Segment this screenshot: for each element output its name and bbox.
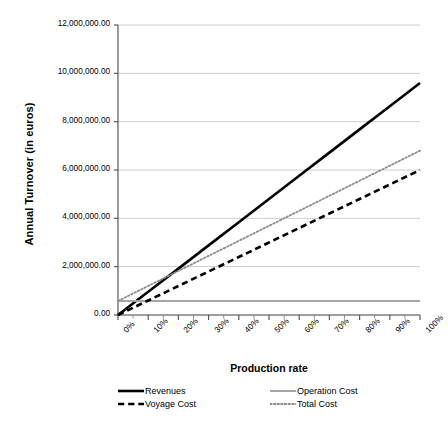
x-tick-label: 60%	[303, 328, 309, 334]
x-tick-label: 70%	[333, 328, 339, 334]
legend-label: Operation Cost	[297, 387, 358, 396]
x-tick-label: 80%	[363, 328, 369, 334]
x-tick-label: 0%	[122, 328, 128, 334]
x-tick-label: 100%	[424, 328, 430, 334]
x-axis-title: Production rate	[118, 362, 420, 374]
chart-container: Annual Turnover (in euros) 0.002,000,000…	[0, 0, 448, 435]
x-tick-label: 20%	[182, 328, 188, 334]
legend-label: Revenues	[145, 387, 186, 396]
line-dashed-black-icon	[118, 399, 144, 409]
x-tick-label: 40%	[243, 328, 249, 334]
legend-item[interactable]: Revenues	[118, 386, 266, 396]
chart-legend: RevenuesOperation CostVoyage CostTotal C…	[118, 386, 418, 409]
line-solid-black-icon	[118, 386, 144, 396]
legend-item[interactable]: Operation Cost	[270, 386, 418, 396]
x-tick-label: 10%	[152, 328, 158, 334]
legend-label: Total Cost	[297, 400, 337, 409]
legend-label: Voyage Cost	[145, 400, 196, 409]
legend-item[interactable]: Voyage Cost	[118, 399, 266, 409]
legend-item[interactable]: Total Cost	[270, 399, 418, 409]
x-tick-label: 30%	[212, 328, 218, 334]
line-dotted-gray-icon	[270, 399, 296, 409]
x-tick-label: 50%	[273, 328, 279, 334]
line-solid-gray-icon	[270, 386, 296, 396]
x-tick-label: 90%	[394, 328, 400, 334]
